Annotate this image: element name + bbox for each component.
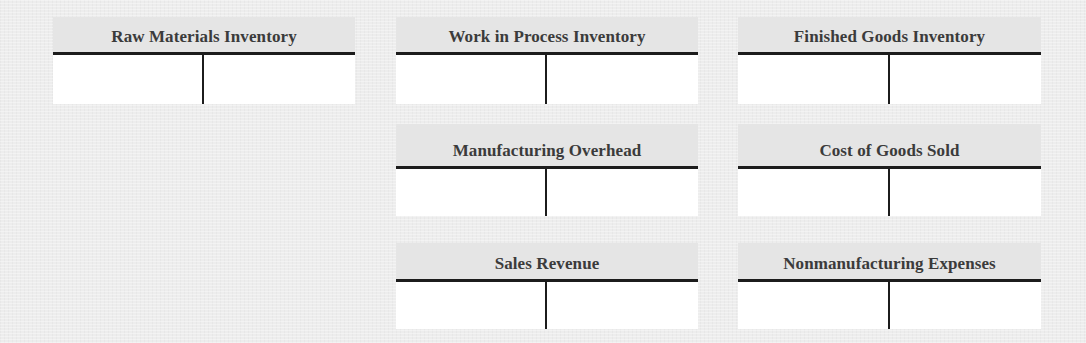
t-account-debit-side [396,169,546,216]
t-account-body [396,282,698,329]
t-account-debit-side [738,169,888,216]
t-account-debit-side [738,282,888,329]
t-account-title: Nonmanufacturing Expenses [783,255,996,279]
t-account-vertical-divider [545,280,547,329]
t-account-credit-side [548,169,698,216]
t-account-header: Nonmanufacturing Expenses [738,243,1041,279]
t-account-header: Sales Revenue [396,243,698,279]
t-account-title: Work in Process Inventory [448,28,645,52]
t-account-credit-side [890,282,1041,329]
t-account-manufacturing-overhead: Manufacturing Overhead [396,124,698,216]
t-account-vertical-divider [545,167,547,216]
t-account-header: Finished Goods Inventory [738,17,1041,52]
t-account-credit-side [205,55,355,104]
t-account-header: Work in Process Inventory [396,17,698,52]
t-account-title: Manufacturing Overhead [453,142,642,166]
t-account-header: Raw Materials Inventory [53,17,355,52]
t-account-debit-side [396,55,546,104]
t-account-credit-side [548,282,698,329]
t-account-title: Cost of Goods Sold [819,142,959,166]
t-account-body [396,55,698,104]
t-account-title: Raw Materials Inventory [111,28,297,52]
t-account-work-in-process-inventory: Work in Process Inventory [396,17,698,104]
t-account-title: Sales Revenue [495,255,600,279]
t-account-debit-side [53,55,203,104]
t-account-debit-side [396,282,546,329]
t-account-cost-of-goods-sold: Cost of Goods Sold [738,124,1041,216]
t-account-credit-side [890,55,1041,104]
t-account-finished-goods-inventory: Finished Goods Inventory [738,17,1041,104]
t-account-vertical-divider [202,53,204,104]
t-account-vertical-divider [888,280,890,329]
t-account-debit-side [738,55,888,104]
t-account-title: Finished Goods Inventory [794,28,985,52]
t-account-header: Cost of Goods Sold [738,124,1041,166]
t-account-body [396,169,698,216]
t-account-header: Manufacturing Overhead [396,124,698,166]
t-account-credit-side [548,55,698,104]
t-account-body [53,55,355,104]
t-account-vertical-divider [888,167,890,216]
t-account-nonmanufacturing-expenses: Nonmanufacturing Expenses [738,243,1041,329]
t-account-vertical-divider [545,53,547,104]
t-account-sales-revenue: Sales Revenue [396,243,698,329]
t-account-vertical-divider [888,53,890,104]
t-account-raw-materials-inventory: Raw Materials Inventory [53,17,355,104]
t-account-credit-side [890,169,1041,216]
